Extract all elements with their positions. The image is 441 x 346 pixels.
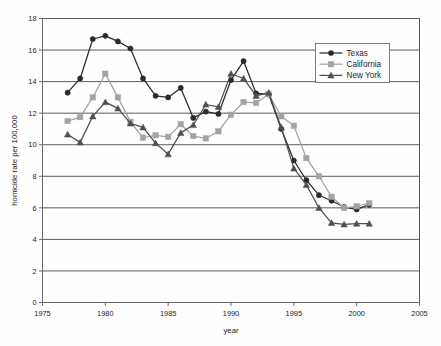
data-point-marker-texas-1985: [166, 95, 171, 100]
data-point-marker-new-york-1980: [102, 99, 108, 105]
data-point-marker-new-york-1988: [203, 101, 209, 107]
data-point-marker-new-york-1986: [178, 130, 184, 136]
series-line-new-york: [68, 74, 370, 225]
data-point-marker-texas-1986: [178, 85, 183, 90]
data-point-marker-texas-1987: [191, 115, 196, 120]
data-point-marker-california-1983: [140, 135, 145, 140]
data-point-marker-california-1979: [90, 95, 95, 100]
data-point-marker-texas-1988: [203, 109, 208, 114]
data-point-marker-california-1988: [203, 136, 208, 141]
data-point-marker-california-1989: [216, 129, 221, 134]
series-california: [65, 71, 372, 211]
chart-figure: 0246810121416181975198019851990199520002…: [0, 0, 441, 346]
data-point-marker-texas-1982: [128, 46, 133, 51]
data-point-marker-california-1998: [329, 194, 334, 199]
chart-legend: TexasCaliforniaNew York: [316, 44, 390, 83]
data-point-marker-legend-texas: [328, 50, 333, 55]
y-tick-label-18: 18: [28, 14, 36, 23]
data-point-marker-california-1987: [191, 133, 196, 138]
series-new-york: [64, 71, 372, 228]
y-tick-label-16: 16: [28, 46, 36, 55]
data-point-marker-texas-1977: [65, 90, 70, 95]
data-point-marker-california-1980: [103, 71, 108, 76]
data-point-marker-texas-1997: [316, 193, 321, 198]
x-tick-label-2000: 2000: [348, 309, 364, 318]
data-point-marker-texas-1989: [216, 111, 221, 116]
y-tick-label-14: 14: [28, 77, 36, 86]
data-point-marker-california-1996: [304, 155, 309, 160]
legend-label-texas: Texas: [347, 49, 368, 58]
y-tick-label-10: 10: [28, 140, 36, 149]
data-point-marker-california-1978: [78, 114, 83, 119]
data-point-marker-new-york-1977: [64, 131, 70, 137]
x-axis-title: year: [223, 326, 239, 335]
legend-label-california: California: [347, 60, 382, 69]
x-tick-label-1985: 1985: [160, 309, 176, 318]
y-tick-label-4: 4: [32, 235, 36, 244]
y-tick-label-0: 0: [32, 298, 36, 307]
line-chart: 0246810121416181975198019851990199520002…: [0, 0, 441, 346]
data-point-marker-california-1990: [228, 112, 233, 117]
data-point-marker-california-1977: [65, 118, 70, 123]
y-tick-label-8: 8: [32, 172, 36, 181]
data-point-marker-texas-1980: [103, 33, 108, 38]
x-tick-label-1995: 1995: [286, 309, 302, 318]
data-point-marker-california-1986: [178, 122, 183, 127]
data-point-marker-new-york-1987: [190, 122, 196, 128]
data-point-marker-california-1981: [115, 95, 120, 100]
data-point-marker-california-1994: [279, 114, 284, 119]
data-point-marker-california-1992: [253, 100, 258, 105]
data-point-marker-texas-1984: [153, 93, 158, 98]
data-point-marker-new-york-1994: [278, 124, 284, 130]
data-point-marker-new-york-1990: [228, 71, 234, 77]
x-tick-label-2005: 2005: [411, 309, 427, 318]
y-tick-label-2: 2: [32, 267, 36, 276]
data-point-marker-california-1991: [241, 99, 246, 104]
data-point-marker-texas-1983: [140, 76, 145, 81]
series-line-california: [68, 74, 370, 208]
y-axis-title: homicide rate per 100,000: [10, 115, 19, 206]
data-point-marker-new-york-1995: [291, 165, 297, 171]
data-point-marker-texas-1991: [241, 59, 246, 64]
legend-label-new-york: New York: [347, 71, 382, 80]
data-point-marker-new-york-1981: [115, 105, 121, 111]
x-tick-label-1980: 1980: [97, 309, 113, 318]
data-point-marker-california-1985: [165, 134, 170, 139]
data-point-marker-texas-1979: [90, 36, 95, 41]
data-point-marker-california-1984: [153, 133, 158, 138]
y-tick-label-12: 12: [28, 109, 36, 118]
data-point-marker-california-2001: [367, 200, 372, 205]
data-point-marker-new-york-1978: [77, 139, 83, 145]
data-point-marker-texas-1978: [78, 76, 83, 81]
x-tick-label-1975: 1975: [34, 309, 50, 318]
x-tick-label-1990: 1990: [223, 309, 239, 318]
y-tick-label-6: 6: [32, 204, 36, 213]
data-point-marker-legend-california: [328, 62, 333, 67]
data-point-marker-california-2000: [354, 204, 359, 209]
data-point-marker-california-1995: [291, 123, 296, 128]
data-point-marker-california-1997: [316, 174, 321, 179]
data-point-marker-texas-1981: [115, 39, 120, 44]
data-point-marker-california-1999: [341, 205, 346, 210]
